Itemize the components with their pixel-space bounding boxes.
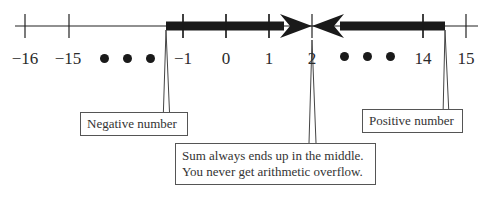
tick-label-2: 2 (308, 50, 317, 67)
tick-label-0: 0 (222, 50, 231, 67)
tick-label-neg16: −16 (12, 50, 39, 67)
dot-icon (386, 52, 395, 61)
positive-number-callout: Positive number (362, 109, 463, 133)
dot-icon (123, 54, 132, 63)
dot-icon (363, 52, 372, 61)
tick-label-1: 1 (265, 50, 274, 67)
positive-range-bar (340, 22, 445, 31)
tick-label-14: 14 (415, 50, 432, 67)
callout-text-line2: You never get arithmetic overflow. (182, 164, 369, 180)
tick-label-neg1: −1 (174, 50, 192, 67)
negative-number-callout: Negative number (80, 112, 188, 136)
callout-text: Positive number (369, 113, 454, 128)
dot-icon (100, 54, 109, 63)
tick-label-neg15: −15 (55, 50, 82, 67)
callout-text-line1: Sum always ends up in the middle. (182, 148, 369, 164)
sum-middle-callout: Sum always ends up in the middle. You ne… (175, 143, 376, 185)
negative-range-bar (166, 22, 284, 31)
callout-text: Negative number (87, 116, 177, 131)
tick-label-15: 15 (458, 50, 475, 67)
dot-icon (146, 54, 155, 63)
dot-icon (340, 52, 349, 61)
